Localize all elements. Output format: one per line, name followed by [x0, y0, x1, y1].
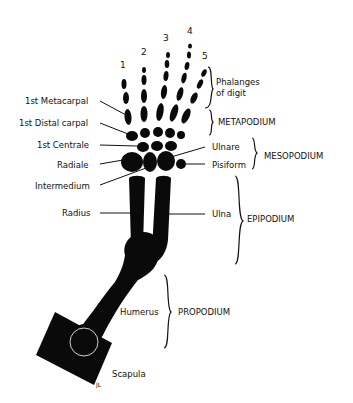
label-intermedium: Intermedium	[35, 181, 90, 191]
label-humerus: Humerus	[120, 307, 159, 317]
label-radius: Radius	[62, 208, 91, 218]
ulnare-bone	[157, 151, 175, 171]
label-first-metacarpal: 1st Metacarpal	[25, 96, 88, 106]
radiale-bone	[121, 152, 143, 172]
pisiform-bone	[176, 159, 186, 169]
radius-bone	[129, 176, 145, 248]
label-ulna: Ulna	[212, 209, 231, 219]
label-propodium: PROPODIUM	[178, 307, 230, 317]
label-metapodium: METAPODIUM	[218, 117, 275, 127]
label-radiale: Radiale	[57, 160, 89, 170]
brace-propodium	[164, 275, 171, 348]
artist-signature: JL	[96, 381, 101, 388]
label-phalanges-line1: Phalanges	[216, 77, 260, 87]
distal-carpal-bones	[126, 127, 185, 141]
digit-number-4: 4	[187, 26, 193, 36]
label-first-distal-carpal: 1st Distal carpal	[19, 118, 88, 128]
leader-first-centrale	[100, 145, 137, 146]
label-epipodium: EPIPODIUM	[247, 214, 294, 224]
digit-1-bones	[122, 79, 133, 125]
label-scapula: Scapula	[112, 369, 146, 379]
humerus-bone	[69, 232, 160, 356]
digit-3-bones	[155, 52, 170, 121]
leader-first-metacarpal	[100, 101, 126, 115]
label-pisiform: Pisiform	[212, 160, 246, 170]
brace-epipodium	[235, 176, 243, 264]
brace-mesopodium	[252, 138, 257, 169]
leader-first-distal-carpal	[100, 123, 128, 134]
digit-number-1: 1	[120, 60, 126, 70]
label-mesopodium: MESOPODIUM	[264, 151, 323, 161]
label-phalanges-line2: of digit	[216, 88, 246, 98]
leader-radiale	[100, 160, 123, 164]
digit-number-3: 3	[163, 33, 169, 43]
intermedium-bone	[143, 152, 157, 172]
label-ulnare: Ulnare	[212, 142, 240, 152]
brace-metapodium	[209, 110, 213, 135]
digit-number-5: 5	[202, 51, 208, 61]
digit-number-2: 2	[141, 47, 147, 57]
centralia-bones	[137, 141, 177, 152]
label-first-centrale: 1st Centrale	[37, 140, 89, 150]
digit-2-bones	[141, 67, 148, 122]
forelimb-diagram	[0, 0, 353, 403]
ulna-bone	[151, 176, 171, 262]
